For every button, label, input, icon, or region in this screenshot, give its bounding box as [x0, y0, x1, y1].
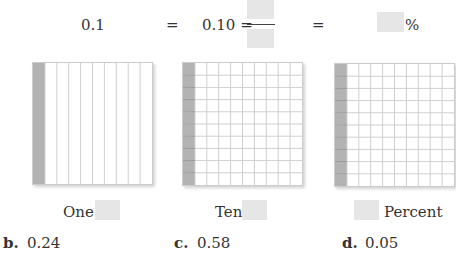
exercise-letter: b. — [3, 234, 19, 252]
one-blank[interactable] — [95, 200, 120, 220]
grid-label-percent: Percent — [384, 203, 442, 221]
denominator-blank[interactable] — [247, 29, 274, 48]
exercise-value: 0.58 — [197, 234, 230, 252]
hundredths-grid-percent — [334, 63, 455, 187]
percent-blank[interactable] — [377, 12, 404, 32]
hundredths-grid-ten — [182, 62, 303, 186]
equals-sign: = — [166, 16, 179, 34]
exercise-letter: c. — [174, 234, 188, 252]
decimal-value: 0.1 — [81, 16, 105, 34]
numerator-blank[interactable] — [247, 0, 274, 19]
fraction-bar — [247, 24, 275, 25]
hundredths-value: 0.10 = — [202, 16, 253, 34]
exercise-letter: d. — [342, 234, 358, 252]
grid-label-ten: Ten — [215, 203, 242, 221]
exercise-value: 0.24 — [27, 234, 60, 252]
percent-label-blank[interactable] — [354, 200, 379, 220]
ten-blank[interactable] — [242, 200, 267, 220]
tenths-grid — [32, 62, 153, 185]
grid-label-one: One — [63, 203, 94, 221]
equals-sign: = — [312, 16, 325, 34]
percent-sign: % — [405, 16, 419, 34]
exercise-value: 0.05 — [365, 234, 398, 252]
